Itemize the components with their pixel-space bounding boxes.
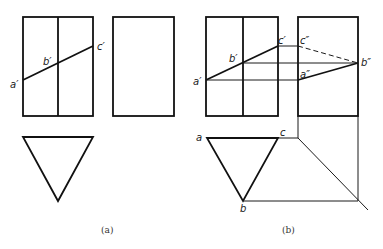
label-a: a xyxy=(196,132,202,143)
panel-a: a′ b′ c′ (a) xyxy=(10,17,174,235)
top-view-triangle-b xyxy=(207,138,278,201)
label-c-prime: c′ xyxy=(278,35,286,46)
front-view-outline xyxy=(206,17,278,116)
label-a-prime: a′ xyxy=(10,79,19,90)
label-a-prime: a′ xyxy=(193,76,202,87)
hidden-line-c-dprime-b-dprime xyxy=(298,46,358,63)
side-view-b xyxy=(298,17,358,116)
caption-b: (b) xyxy=(282,225,295,235)
label-c: c xyxy=(280,127,286,138)
label-b-prime: b′ xyxy=(43,56,52,67)
side-view-a xyxy=(113,17,174,116)
side-view-outline xyxy=(298,17,358,116)
caption-a: (a) xyxy=(101,225,113,235)
orthographic-projection-diagram: a′ b′ c′ (a) a′ b′ c′ xyxy=(0,0,383,249)
label-c-prime: c′ xyxy=(97,41,105,52)
label-a-dprime: a″ xyxy=(300,69,310,80)
front-view-b xyxy=(206,17,278,116)
label-b-dprime: b″ xyxy=(361,57,371,68)
label-b: b xyxy=(240,203,246,214)
label-b-prime: b′ xyxy=(229,53,238,64)
top-view-triangle-a xyxy=(23,137,93,201)
panel-b: a′ b′ c′ c″ b″ a″ a c b (b) xyxy=(193,17,371,235)
label-c-dprime: c″ xyxy=(300,35,309,46)
front-view-a xyxy=(23,17,93,116)
